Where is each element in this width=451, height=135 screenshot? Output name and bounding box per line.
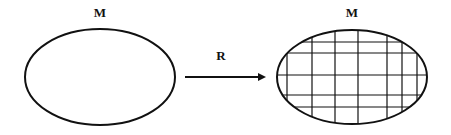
left-set-ellipse (25, 29, 175, 125)
grid-partition (270, 20, 435, 130)
diagram-canvas: M R M (0, 0, 451, 135)
right-set-ellipse (277, 30, 427, 124)
left-set-label: M (94, 5, 106, 20)
arrow-label: R (216, 48, 226, 63)
right-set-label: M (346, 5, 358, 20)
